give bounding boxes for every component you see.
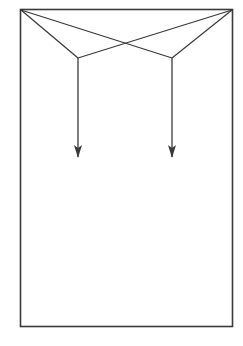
left-corner-to-left-vertex-line (21, 10, 78, 58)
left-corner-to-right-vertex-line (21, 10, 172, 58)
frame-rectangle (21, 10, 233, 327)
right-corner-to-left-vertex-line (78, 10, 232, 58)
right-corner-to-right-vertex-line (172, 10, 232, 58)
diagram-canvas (0, 0, 243, 346)
